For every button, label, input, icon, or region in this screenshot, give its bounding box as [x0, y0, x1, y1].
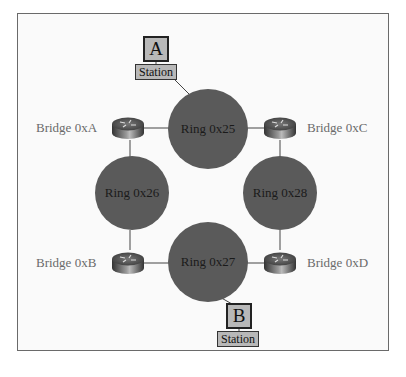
router-icon[interactable]	[111, 251, 145, 275]
ring-0x28[interactable]: Ring 0x28	[243, 156, 317, 230]
station-a-box[interactable]: A	[143, 36, 169, 62]
router-icon[interactable]	[111, 116, 145, 140]
station-b-box[interactable]: B	[226, 303, 252, 329]
bridge-0xa-label: Bridge 0xA	[36, 120, 97, 136]
router-icon[interactable]	[263, 116, 297, 140]
connection-lines	[0, 0, 406, 377]
router-icon[interactable]	[263, 251, 297, 275]
station-label-text: Station	[221, 332, 255, 346]
station-label-text: Station	[139, 65, 173, 79]
bridge-0xc-label: Bridge 0xC	[307, 120, 367, 136]
bridge-0xb-label: Bridge 0xB	[36, 255, 96, 271]
bridge-0xd-label: Bridge 0xD	[307, 255, 368, 271]
station-letter: A	[149, 38, 163, 60]
ring-0x26[interactable]: Ring 0x26	[95, 156, 169, 230]
ring-0x25[interactable]: Ring 0x25	[168, 89, 248, 169]
ring-0x27[interactable]: Ring 0x27	[168, 222, 248, 302]
ring-label: Ring 0x25	[181, 121, 236, 137]
station-letter: B	[233, 305, 246, 327]
ring-label: Ring 0x26	[105, 185, 160, 201]
ring-label: Ring 0x28	[253, 185, 308, 201]
station-b-label: Station	[217, 331, 259, 347]
station-a-label: Station	[135, 64, 177, 80]
ring-label: Ring 0x27	[181, 254, 236, 270]
